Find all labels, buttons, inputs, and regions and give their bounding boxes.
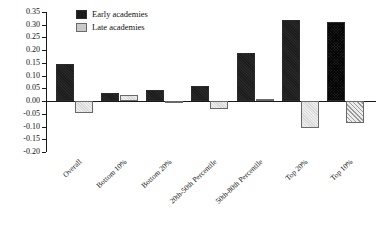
bar-late [210, 101, 228, 109]
y-tick-mark [42, 63, 46, 64]
y-tick-mark [42, 127, 46, 128]
y-tick-label: 0.20 [26, 46, 40, 54]
x-category-label: Top 10% [329, 158, 354, 182]
y-tick-mark [42, 76, 46, 77]
plot-area: 0.350.300.250.200.150.100.050.00-0.05-0.… [46, 12, 376, 152]
y-tick-mark [42, 12, 46, 13]
y-tick-mark [42, 114, 46, 115]
x-category-label: 20th-50th Percentile [169, 158, 219, 205]
bar-early [282, 20, 300, 101]
x-category-label: Top 20% [284, 158, 309, 182]
y-tick-label: -0.15 [23, 135, 40, 143]
y-tick-label: 0.35 [26, 8, 40, 16]
bar-late [120, 95, 138, 101]
x-category-label: Overall [62, 158, 84, 179]
x-category-label: 50th-80th Percentile [214, 158, 264, 205]
bar-late [165, 101, 183, 103]
bar-late [256, 99, 274, 101]
bar-early [146, 90, 164, 101]
bar-early [237, 53, 255, 101]
y-tick-label: 0.00 [26, 97, 40, 105]
y-tick-label: 0.10 [26, 72, 40, 80]
bar-early [56, 64, 74, 101]
y-tick-label: -0.05 [23, 110, 40, 118]
x-category-label: Bottom 20% [140, 158, 173, 189]
y-tick-mark [42, 25, 46, 26]
y-tick-mark [42, 50, 46, 51]
y-tick-mark [42, 101, 46, 102]
y-tick-label: 0.15 [26, 59, 40, 67]
chart-figure: Early academies Late academies 0.350.300… [0, 0, 385, 231]
bar-early [101, 93, 119, 101]
bar-late [301, 101, 319, 128]
y-tick-mark [42, 37, 46, 38]
x-category-label: Bottom 10% [95, 158, 128, 189]
y-tick-mark [42, 152, 46, 153]
y-tick-label: 0.30 [26, 21, 40, 29]
y-tick-label: 0.25 [26, 33, 40, 41]
y-axis-line [46, 12, 47, 152]
y-tick-label: -0.10 [23, 123, 40, 131]
y-tick-mark [42, 139, 46, 140]
bar-early [191, 86, 209, 101]
y-tick-label: -0.20 [23, 148, 40, 156]
bar-late [75, 101, 93, 112]
bar-early [327, 22, 345, 101]
bar-late [346, 101, 364, 123]
y-tick-mark [42, 88, 46, 89]
y-tick-label: 0.05 [26, 84, 40, 92]
